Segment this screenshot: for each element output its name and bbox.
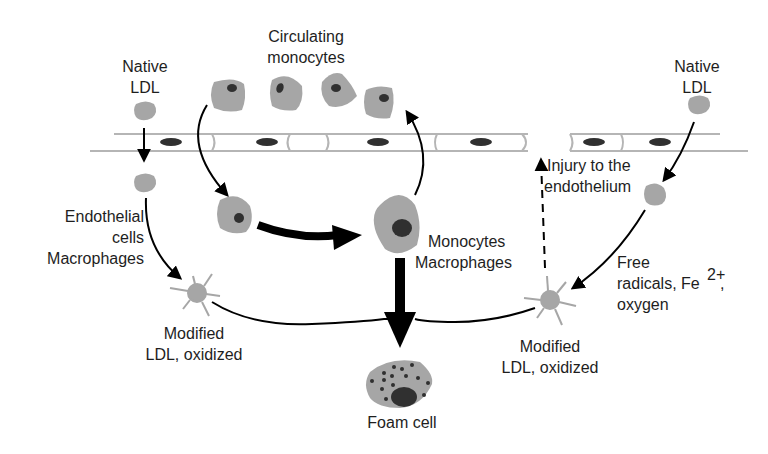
free-radicals-label: Free bbox=[617, 254, 650, 271]
free-radicals-label: radicals, Fe bbox=[617, 275, 700, 292]
foam-cell bbox=[366, 360, 432, 408]
circulating-monocytes-label: Circulating bbox=[268, 28, 344, 45]
circulating-monocytes bbox=[211, 73, 394, 119]
modified-ldl-right-label: LDL, oxidized bbox=[502, 359, 599, 376]
modified-ldl-left-label: LDL, oxidized bbox=[146, 346, 243, 363]
free-radicals-label: oxygen bbox=[617, 296, 669, 313]
native-ldl-right-label: Native bbox=[674, 58, 719, 75]
arrow-return-circulation bbox=[407, 112, 423, 195]
native-ldl-right-label: LDL bbox=[682, 79, 711, 96]
endothelial-label: Endothelial bbox=[65, 208, 144, 225]
atherosclerosis-diagram: Native LDL Circulating monocytes Monocyt… bbox=[0, 0, 768, 454]
injury-label: endothelium bbox=[544, 178, 631, 195]
free-radicals-comma: , bbox=[720, 275, 724, 292]
modified-ldl-left bbox=[170, 274, 220, 316]
ldl-particle-left bbox=[134, 102, 156, 121]
thick-arrow-differentiation bbox=[258, 225, 338, 236]
endothelial-label: cells bbox=[112, 229, 144, 246]
monocytes-macrophages-label: Monocytes bbox=[428, 233, 505, 250]
foam-cell-label: Foam cell bbox=[367, 414, 436, 431]
thick-arrow-foam-head bbox=[384, 312, 416, 348]
ldl-particle-subendothelial-left bbox=[134, 174, 156, 193]
connector-left-foam bbox=[212, 302, 394, 324]
ldl-particle-right bbox=[688, 96, 710, 115]
monocytes-macrophages-label: Macrophages bbox=[415, 254, 512, 271]
modified-ldl-right bbox=[524, 276, 576, 325]
ldl-particle-subendothelial-right bbox=[644, 183, 666, 205]
injury-label: Injury to the bbox=[547, 157, 631, 174]
dashed-arrow-injury bbox=[541, 160, 545, 268]
monocyte-entered bbox=[217, 196, 252, 233]
arrow-ldl-oxidation-left bbox=[146, 198, 180, 278]
circulating-monocytes-label: monocytes bbox=[267, 49, 344, 66]
thick-arrow-foam bbox=[395, 258, 405, 314]
thick-arrow-head bbox=[332, 225, 362, 250]
connector-right-foam bbox=[415, 308, 535, 322]
endothelial-label: Macrophages bbox=[47, 250, 144, 267]
modified-ldl-right-label: Modified bbox=[520, 338, 580, 355]
native-ldl-left-label: LDL bbox=[130, 79, 159, 96]
native-ldl-left-label: Native bbox=[122, 58, 167, 75]
modified-ldl-left-label: Modified bbox=[164, 325, 224, 342]
